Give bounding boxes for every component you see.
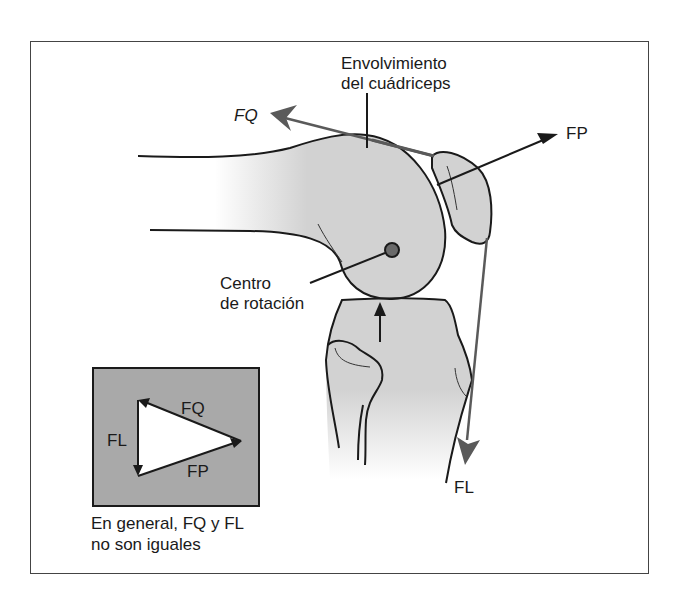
fq-label: FQ [234,106,258,126]
fl-label: FL [454,478,474,498]
inset-caption-line2: no son iguales [91,535,201,555]
femur [138,134,445,299]
inset-fq-label: FQ [181,399,205,419]
tibia [326,299,472,484]
inset-caption-line1: En general, FQ y FL [91,514,244,534]
rotation-center-label-line2: de rotación [220,294,304,314]
inset-fl-label: FL [107,431,127,451]
quad-wrap-label-line1: Envolvimiento [341,54,447,74]
fp-label: FP [566,124,588,144]
inset-fp-label: FP [187,462,209,482]
rotation-center-label-line1: Centro [220,274,271,294]
quad-wrap-label-line2: del cuádriceps [341,74,451,94]
